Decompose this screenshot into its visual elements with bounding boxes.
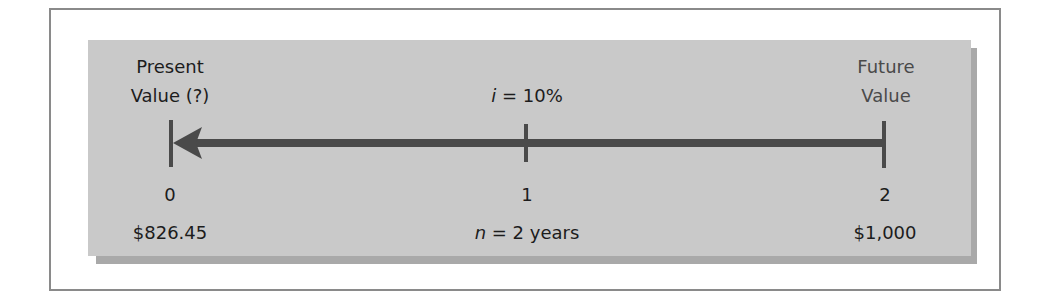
period-1-label: 1: [521, 184, 532, 206]
timeline: [0, 0, 1052, 307]
period-0-label: 0: [164, 184, 175, 206]
present-value-amount: $826.45: [133, 222, 207, 244]
interest-rate-value: = 10%: [496, 85, 563, 106]
future-value-line2: Value: [857, 85, 914, 107]
num-periods-label: n = 2 years: [475, 222, 580, 244]
present-value-line1: Present: [131, 56, 210, 78]
future-value-line1: Future: [857, 56, 914, 78]
interest-rate-label: i = 10%: [491, 85, 563, 107]
timeline-line: [186, 139, 886, 147]
tick-period-2: [882, 121, 886, 168]
num-periods-value: = 2 years: [486, 222, 579, 243]
future-value-amount: $1,000: [854, 222, 917, 244]
tick-period-1: [524, 124, 528, 162]
present-value-line2: Value (?): [131, 85, 210, 107]
tick-period-0: [169, 120, 173, 167]
future-value-label: Future Value: [857, 56, 914, 107]
period-2-label: 2: [879, 184, 890, 206]
num-periods-variable: n: [475, 222, 486, 243]
present-value-label: Present Value (?): [131, 56, 210, 107]
